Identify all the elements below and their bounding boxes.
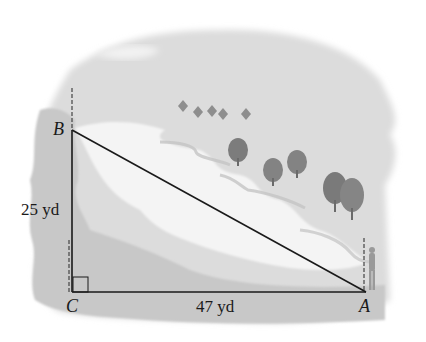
river-triangle-diagram: B C A 25 yd 47 yd bbox=[0, 0, 426, 342]
side-label-ca: 47 yd bbox=[196, 297, 235, 316]
vertex-label-c: C bbox=[66, 296, 79, 316]
vertex-label-b: B bbox=[53, 119, 64, 139]
side-label-bc: 25 yd bbox=[21, 200, 60, 219]
vertex-label-a: A bbox=[358, 296, 371, 316]
